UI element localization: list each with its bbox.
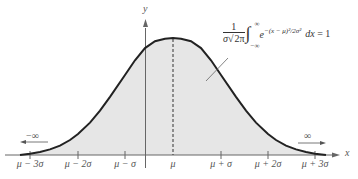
integral-sign: ∫∞−∞ (246, 23, 260, 44)
integral-lower-limit: −∞ (251, 42, 260, 50)
right-tail-label: ∞ (304, 130, 311, 141)
x-axis-label: x (345, 147, 349, 158)
y-axis-arrow-icon (143, 19, 148, 27)
tick-label-mu-minus-sigma: μ − σ (114, 158, 136, 169)
equals-one: = 1 (317, 28, 330, 39)
tick-label-mu-minus-2sigma: μ − 2σ (65, 158, 92, 169)
integrand: e−(x − μ)²/2σ² (260, 27, 302, 40)
tick-label-mu-plus-3sigma: μ + 3σ (302, 158, 329, 169)
right-arrow-icon (320, 141, 326, 145)
sqrt-radicand: 2π (233, 32, 244, 44)
integrand-exponent: −(x − μ)²/2σ² (264, 27, 301, 35)
formula-tail: dx = 1 (305, 28, 330, 39)
tick-label-mu: μ (170, 158, 175, 169)
normalizing-fraction: 1 σ√2π (223, 21, 245, 45)
tick-label-mu-minus-3sigma: μ − 3σ (17, 158, 44, 169)
differential: dx (305, 28, 314, 39)
fraction-denominator: σ√2π (223, 33, 245, 45)
normal-distribution-diagram: y x −∞ ∞ μ − 3σ μ − 2σ μ − σ μ μ + σ μ +… (0, 0, 358, 179)
tick-label-mu-plus-sigma: μ + σ (210, 158, 232, 169)
normal-integral-formula: 1 σ√2π ∫∞−∞e−(x − μ)²/2σ²dx = 1 (223, 21, 330, 45)
integral-upper-limit: ∞ (255, 20, 260, 28)
left-tail-label: −∞ (26, 130, 39, 141)
tick-label-mu-plus-2sigma: μ + 2σ (255, 158, 282, 169)
x-axis-arrow-icon (332, 153, 340, 158)
y-axis-label: y (143, 3, 147, 14)
